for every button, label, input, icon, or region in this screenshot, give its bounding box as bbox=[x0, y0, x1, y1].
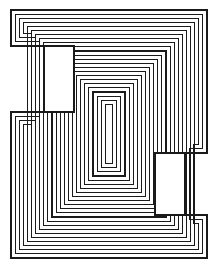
artboard: Nested rectilinear contour pattern bbox=[0, 0, 222, 272]
upper-left-island-fill bbox=[44, 46, 74, 112]
figure-background bbox=[0, 0, 222, 272]
lower-right-island-fill bbox=[155, 153, 185, 215]
contour-figure: Nested rectilinear contour pattern bbox=[0, 0, 222, 272]
